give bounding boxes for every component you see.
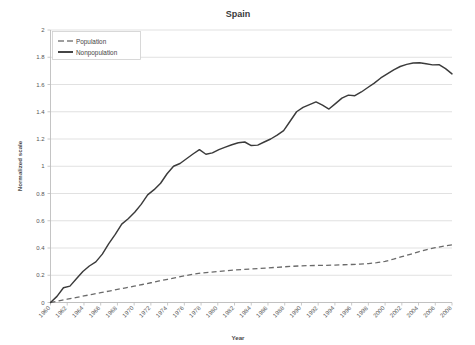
y-tick-label: 1.4 — [36, 109, 45, 115]
y-tick-label: 0.4 — [36, 245, 45, 251]
chart-container: Spain 00.20.40.60.811.21.41.61.82 196019… — [0, 0, 475, 345]
y-tick-label: 1.2 — [36, 136, 45, 142]
chart-legend: Population Nonpopulation — [53, 32, 141, 60]
x-axis-title: Year — [231, 334, 245, 341]
legend-label-nonpopulation: Nonpopulation — [76, 49, 118, 57]
y-tick-label: 0.6 — [36, 218, 45, 224]
y-tick-label: 0.2 — [36, 272, 45, 278]
line-chart: Spain 00.20.40.60.811.21.41.61.82 196019… — [0, 0, 475, 345]
y-tick-label: 1.6 — [36, 82, 45, 88]
y-axis-title: Normalized scale — [16, 140, 23, 191]
y-tick-label: 0.8 — [36, 191, 45, 197]
chart-title: Spain — [226, 9, 251, 19]
legend-label-population: Population — [76, 38, 107, 46]
y-tick-label: 1.8 — [36, 54, 45, 60]
